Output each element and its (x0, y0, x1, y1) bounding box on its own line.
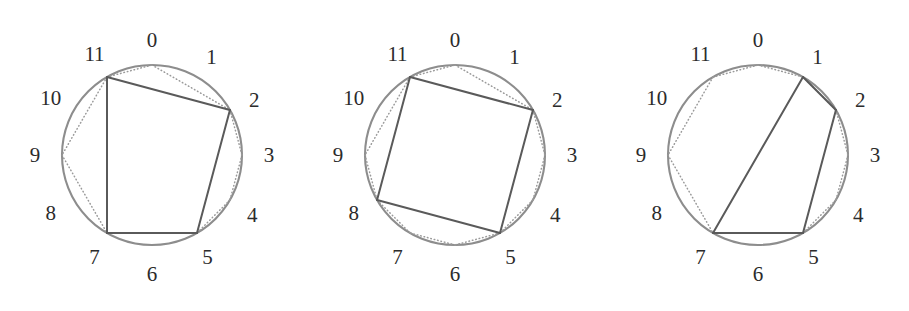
position-label-0: 0 (450, 30, 461, 51)
position-label-5: 5 (505, 247, 516, 268)
position-label-11: 11 (84, 43, 104, 64)
position-label-6: 6 (450, 264, 461, 285)
clock-circle (62, 65, 242, 245)
position-label-7: 7 (89, 247, 100, 268)
position-label-8: 8 (46, 202, 57, 223)
position-label-9: 9 (333, 145, 344, 166)
position-label-10: 10 (40, 87, 61, 108)
position-label-0: 0 (147, 30, 158, 51)
position-label-7: 7 (392, 247, 403, 268)
clock-circle (365, 65, 545, 245)
position-label-4: 4 (550, 204, 561, 225)
figure-row: 0123456789101101234567891011012345678910… (0, 0, 909, 311)
solid-chord-11-2 (107, 77, 230, 110)
circle-diagram-3: 01234567891011 (606, 0, 909, 311)
position-label-3: 3 (567, 145, 578, 166)
solid-chord-2-5 (803, 110, 836, 233)
position-label-4: 4 (247, 204, 258, 225)
position-label-6: 6 (753, 264, 764, 285)
position-label-8: 8 (349, 202, 360, 223)
dotted-chord-9-7 (668, 155, 713, 233)
position-label-3: 3 (264, 145, 275, 166)
dotted-chord-0-2 (152, 65, 230, 110)
position-label-1: 1 (206, 46, 217, 67)
dotted-chord-9-7 (62, 155, 107, 233)
position-label-7: 7 (695, 247, 706, 268)
dotted-chord-11-9 (365, 77, 410, 155)
solid-chord-5-8 (377, 200, 500, 233)
position-label-6: 6 (147, 264, 158, 285)
position-label-10: 10 (646, 87, 667, 108)
solid-chord-8-11 (377, 77, 410, 200)
dotted-chord-0-2 (455, 65, 533, 110)
position-label-5: 5 (202, 247, 213, 268)
position-label-9: 9 (636, 145, 647, 166)
position-label-2: 2 (249, 89, 260, 110)
position-label-0: 0 (753, 30, 764, 51)
position-label-2: 2 (552, 89, 563, 110)
circle-diagram-1: 01234567891011 (0, 0, 303, 311)
position-label-2: 2 (855, 89, 866, 110)
position-label-5: 5 (808, 247, 819, 268)
position-label-11: 11 (690, 43, 710, 64)
solid-chord-1-2 (803, 77, 836, 110)
solid-chord-2-5 (197, 110, 230, 233)
dotted-chord-11-9 (62, 77, 107, 155)
solid-chord-2-5 (500, 110, 533, 233)
circle-diagram-2: 01234567891011 (303, 0, 606, 311)
position-label-3: 3 (870, 145, 881, 166)
position-label-11: 11 (387, 43, 407, 64)
position-label-9: 9 (30, 145, 41, 166)
position-label-1: 1 (812, 46, 823, 67)
position-label-1: 1 (509, 46, 520, 67)
solid-chord-7-1 (713, 77, 803, 233)
dotted-chord-11-9 (668, 77, 713, 155)
solid-chord-11-2 (410, 77, 533, 110)
position-label-8: 8 (652, 202, 663, 223)
position-label-4: 4 (853, 204, 864, 225)
position-label-10: 10 (343, 87, 364, 108)
